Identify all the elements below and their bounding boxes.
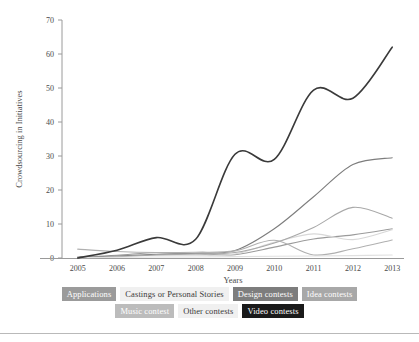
series-lines (78, 47, 392, 258)
footer-divider (0, 333, 419, 334)
y-tick-label: 50 (46, 84, 54, 93)
legend-item[interactable]: Design contests (233, 287, 298, 301)
series-line (78, 158, 392, 258)
x-tick-label: 2006 (109, 264, 125, 273)
chart-legend: ApplicationsCastings or Personal Stories… (0, 287, 419, 318)
x-tick-label: 2005 (70, 264, 86, 273)
legend-item[interactable]: Idea contests (302, 287, 357, 301)
y-axis-title: Crowdsourcing in Initiatives (14, 90, 24, 187)
chart-figure: 010203040506070 200520062007200820092010… (0, 0, 419, 342)
x-tick-label: 2012 (345, 264, 361, 273)
x-tick-label: 2013 (384, 264, 400, 273)
x-axis-ticks: 200520062007200820092010201120122013 (70, 264, 400, 273)
x-axis-title: Years (224, 275, 243, 285)
y-tick-label: 40 (46, 118, 54, 127)
y-axis-ticks: 010203040506070 (46, 16, 62, 263)
x-tick-label: 2010 (266, 264, 282, 273)
legend-row-2: Music contestOther contestsVideo contest… (0, 304, 419, 318)
x-tick-label: 2011 (306, 264, 322, 273)
y-tick-label: 70 (46, 16, 54, 25)
series-line (78, 230, 392, 258)
series-line (78, 47, 392, 258)
legend-row-1: ApplicationsCastings or Personal Stories… (0, 287, 419, 301)
x-tick-label: 2009 (227, 264, 243, 273)
y-tick-label: 30 (46, 152, 54, 161)
y-tick-label: 20 (46, 186, 54, 195)
x-tick-label: 2008 (188, 264, 204, 273)
legend-item[interactable]: Other contests (178, 304, 238, 318)
legend-item[interactable]: Castings or Personal Stories (120, 287, 228, 301)
legend-item[interactable]: Music contest (115, 304, 174, 318)
legend-item[interactable]: Video contests (242, 304, 303, 318)
y-tick-label: 60 (46, 50, 54, 59)
y-tick-label: 10 (46, 220, 54, 229)
legend-item[interactable]: Applications (62, 287, 117, 301)
x-tick-label: 2007 (148, 264, 164, 273)
